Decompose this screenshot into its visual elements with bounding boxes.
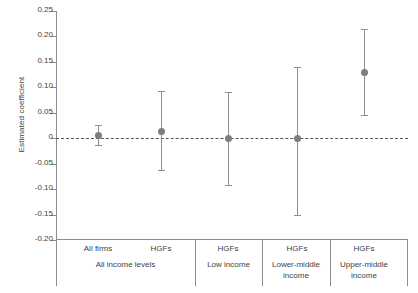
plot-area: 0.25 0.20 0.15 0.10 0.05 0 -0.05 -0.10 [56,11,408,240]
error-cap-upper [361,29,368,30]
error-cap-upper [294,67,301,68]
group-label-lower-middle-income-line1: Lower-middle [262,259,330,270]
x-tick-label-hgfs-lower-middle: HGFs [267,244,327,253]
marker [361,69,368,76]
group-label-low-income: Low income [195,259,262,270]
error-cap-lower [294,215,301,216]
y-tick-label: -0.15 [35,209,53,218]
x-tick-label-all-firms: All firms [68,244,128,253]
x-tick-label-hgfs-upper-middle: HGFs [334,244,394,253]
category-band-right-edge [407,240,408,286]
marker [95,132,102,139]
y-tick-label: 0.20 [37,30,53,39]
x-tick-label-hgfs-all-income: HGFs [131,244,191,253]
y-axis-line [56,11,57,240]
group-label-upper-middle-income-line1: Upper-middle [330,259,398,270]
group-label-all-income-levels: All income levels [56,259,195,270]
group-label-upper-middle-income-line2: income [330,270,398,281]
marker [225,135,232,142]
error-cap-lower [158,170,165,171]
error-cap-lower [225,185,232,186]
y-tick-label: 0.25 [37,5,53,14]
error-cap-upper [95,125,102,126]
coefficient-plot: Estimated coefficient 0.25 0.20 0.15 0.1… [0,0,418,293]
y-tick-label: -0.20 [35,234,53,243]
y-tick-label: -0.10 [35,183,53,192]
y-tick-label: -0.05 [35,158,53,167]
error-cap-upper [158,91,165,92]
y-tick-label: 0.15 [37,56,53,65]
error-cap-lower [95,145,102,146]
marker [294,135,301,142]
error-cap-lower [361,115,368,116]
error-cap-upper [225,92,232,93]
marker [158,128,165,135]
x-tick-label-hgfs-low-income: HGFs [198,244,258,253]
y-axis-title: Estimated coefficient [17,40,26,190]
y-tick-label: 0.05 [37,107,53,116]
y-tick-label: 0 [49,132,53,141]
group-label-lower-middle-income-line2: income [262,270,330,281]
x-axis-category-band: All firms HGFs HGFs HGFs HGFs All income… [56,240,408,286]
zero-reference-line [56,138,408,139]
y-tick-label: 0.10 [37,81,53,90]
